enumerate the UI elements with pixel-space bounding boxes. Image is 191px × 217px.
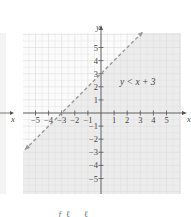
svg-text:−5: −5 — [31, 115, 40, 125]
svg-text:2: 2 — [94, 82, 98, 92]
svg-text:1: 1 — [94, 95, 98, 105]
svg-text:5: 5 — [94, 43, 98, 53]
svg-text:2: 2 — [125, 115, 129, 125]
svg-text:−3: −3 — [89, 147, 98, 157]
svg-text:ƒ: ƒ — [58, 209, 63, 217]
left-partial-panel: x — [0, 33, 15, 194]
svg-text:−4: −4 — [89, 160, 99, 170]
cropped-caption: ƒ ℓ ℓ — [58, 209, 88, 217]
svg-text:ℓ: ℓ — [84, 209, 88, 217]
svg-text:4: 4 — [151, 115, 156, 125]
y-axis-label: y — [95, 22, 100, 32]
inequality-label: y < x + 3 — [119, 77, 156, 87]
svg-text:−4: −4 — [44, 115, 54, 125]
svg-text:3: 3 — [138, 115, 142, 125]
svg-text:ℓ: ℓ — [66, 209, 70, 217]
svg-text:5: 5 — [164, 115, 168, 125]
svg-text:−3: −3 — [57, 115, 66, 125]
x-axis-label: x — [186, 114, 191, 124]
svg-text:−2: −2 — [89, 134, 98, 144]
svg-text:−2: −2 — [70, 115, 79, 125]
svg-text:−1: −1 — [89, 121, 98, 131]
left-panel-x-label: x — [10, 114, 15, 124]
svg-text:1: 1 — [112, 115, 116, 125]
inequality-graph: x y x −5−4−3−2−112345−5−4−3−2−112345 y <… — [0, 0, 191, 217]
svg-text:−5: −5 — [89, 174, 98, 184]
